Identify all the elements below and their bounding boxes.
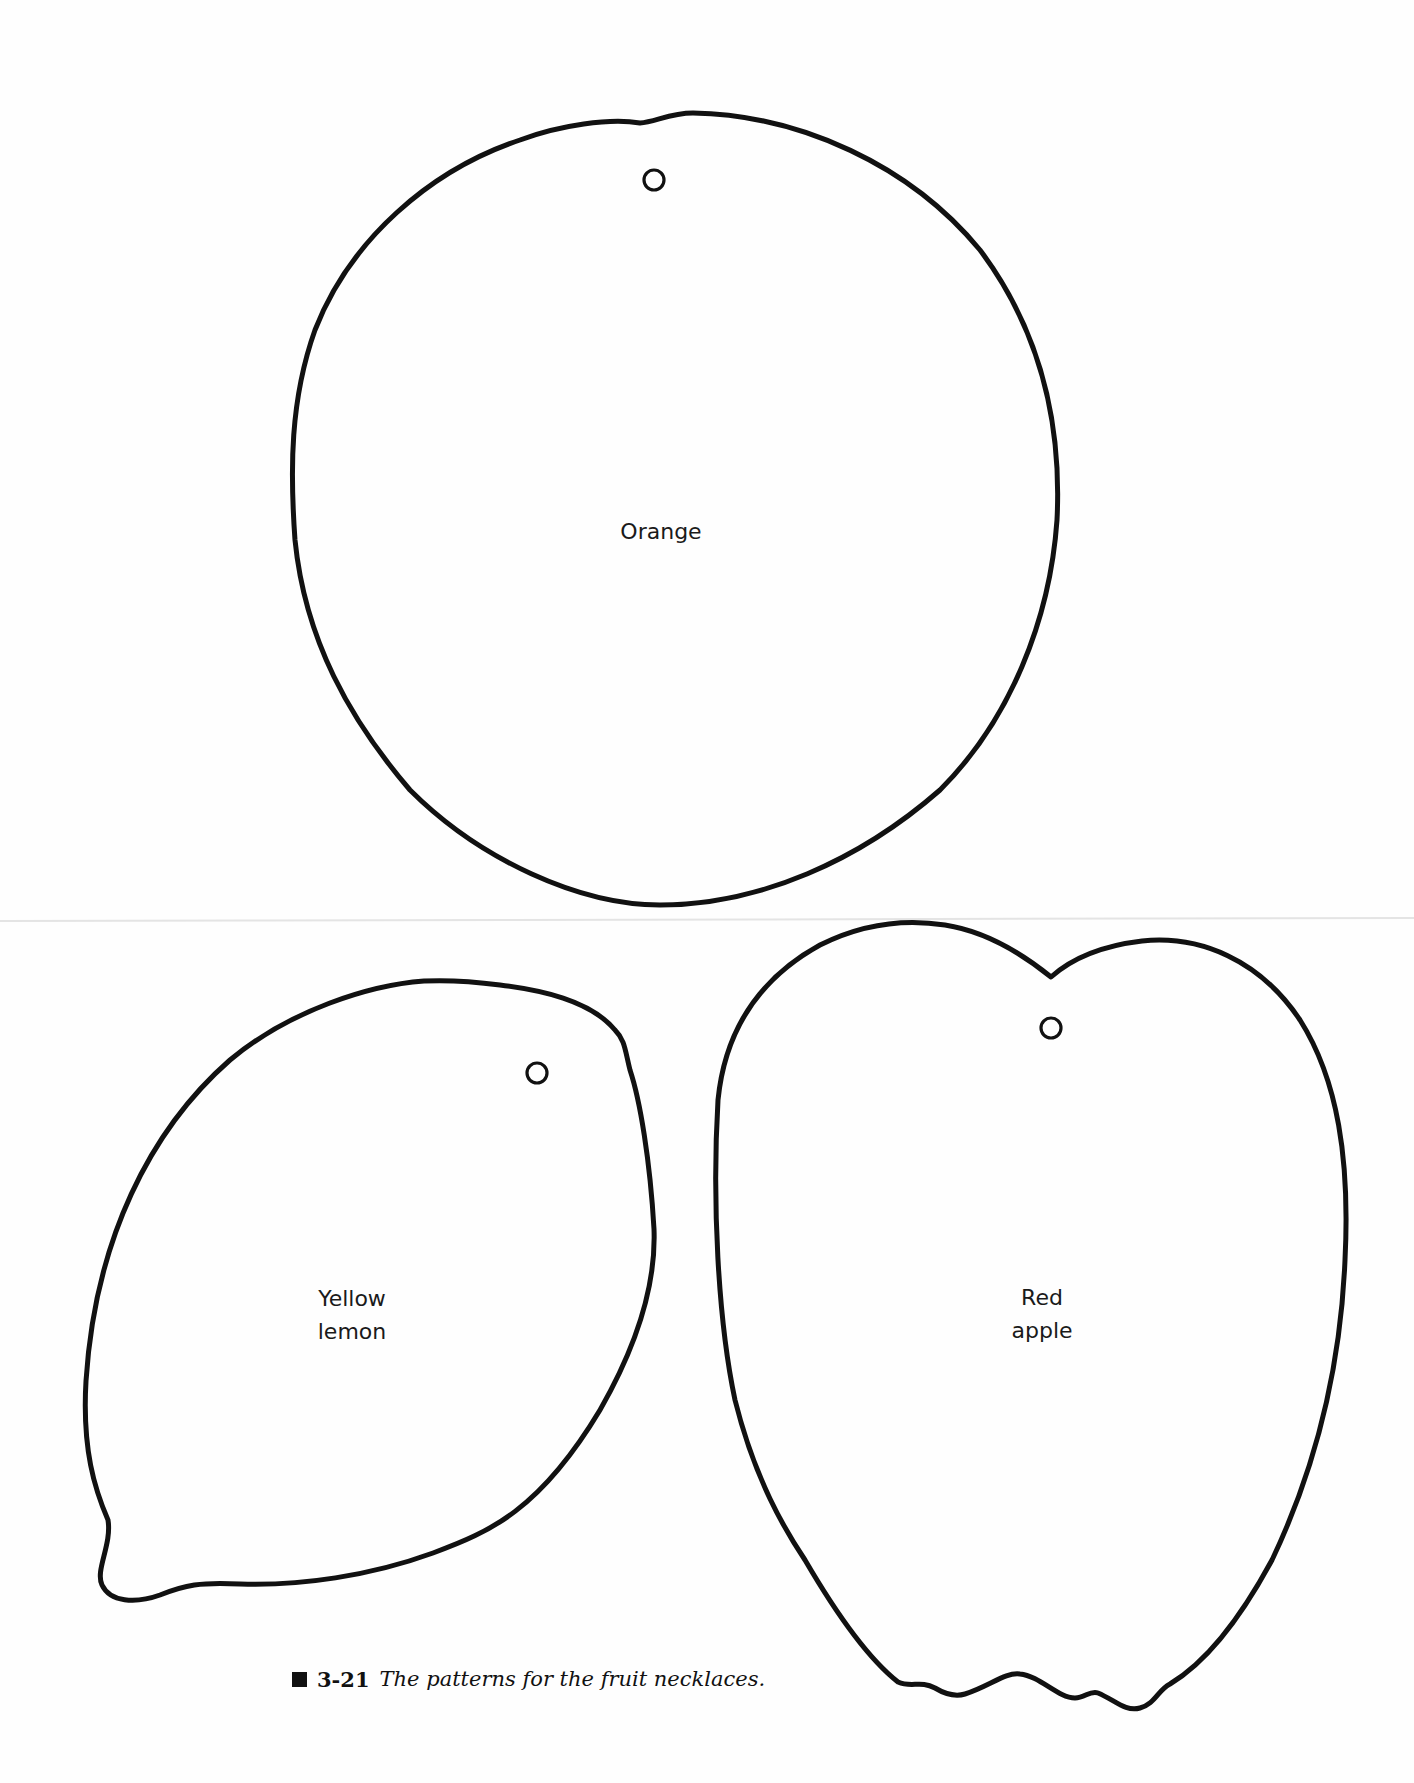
apple-hanging-hole	[1041, 1018, 1061, 1038]
figure-caption: 3-21 The patterns for the fruit necklace…	[292, 1666, 765, 1692]
lemon-label-line-2: lemon	[318, 1315, 386, 1348]
lemon-label: Yellow lemon	[318, 1282, 386, 1348]
page-fold-line	[0, 918, 1414, 921]
document-page: Orange Yellow lemon Red apple 3-21 The p…	[0, 0, 1414, 1783]
figure-caption-text: The patterns for the fruit necklaces.	[380, 1667, 766, 1691]
lemon-hanging-hole	[527, 1063, 547, 1083]
orange-hanging-hole	[644, 170, 664, 190]
apple-label-line-1: Red	[1011, 1281, 1072, 1314]
orange-label-line: Orange	[620, 515, 701, 548]
apple-label-line-2: apple	[1011, 1314, 1072, 1347]
orange-pattern	[292, 113, 1057, 905]
orange-label: Orange	[620, 515, 701, 548]
lemon-label-line-1: Yellow	[318, 1282, 386, 1315]
black-square-icon	[292, 1672, 307, 1687]
orange-outline	[292, 113, 1057, 905]
fruit-patterns-illustration	[0, 0, 1414, 1783]
figure-number: 3-21	[317, 1667, 370, 1692]
apple-label: Red apple	[1011, 1281, 1072, 1347]
